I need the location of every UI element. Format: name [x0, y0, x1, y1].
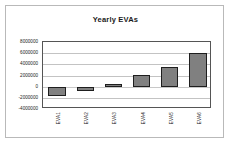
bar: [189, 53, 206, 87]
chart-title: Yearly EVAs: [0, 15, 231, 24]
bar-series: [43, 42, 210, 107]
x-tick-label: EVA4: [141, 112, 146, 124]
y-tick-label: 0: [35, 83, 38, 88]
y-tick-label: 8000000: [20, 39, 38, 44]
chart-figure: Yearly EVAs 8000000600000040000002000000…: [0, 0, 231, 146]
x-tick-label: EVA1: [56, 112, 61, 124]
x-tick-label: EVA3: [112, 112, 117, 124]
y-tick-label: -4000000: [19, 106, 38, 111]
bar: [48, 87, 65, 96]
x-tick-label: EVA5: [169, 112, 174, 124]
bar: [77, 87, 94, 91]
x-tick-label: EVA6: [197, 112, 202, 124]
y-tick-label: 6000000: [20, 50, 38, 55]
bar: [133, 75, 150, 87]
x-axis-tick-labels: EVA1EVA2EVA3EVA4EVA5EVA6: [42, 109, 211, 139]
bar: [105, 84, 122, 86]
y-axis-tick-labels: 80000006000000400000020000000-2000000-40…: [0, 41, 40, 108]
y-tick-label: 2000000: [20, 72, 38, 77]
y-tick-label: 4000000: [20, 61, 38, 66]
plot-area: [42, 41, 211, 108]
bar: [161, 67, 178, 87]
y-tick-label: -2000000: [19, 94, 38, 99]
x-tick-label: EVA2: [84, 112, 89, 124]
